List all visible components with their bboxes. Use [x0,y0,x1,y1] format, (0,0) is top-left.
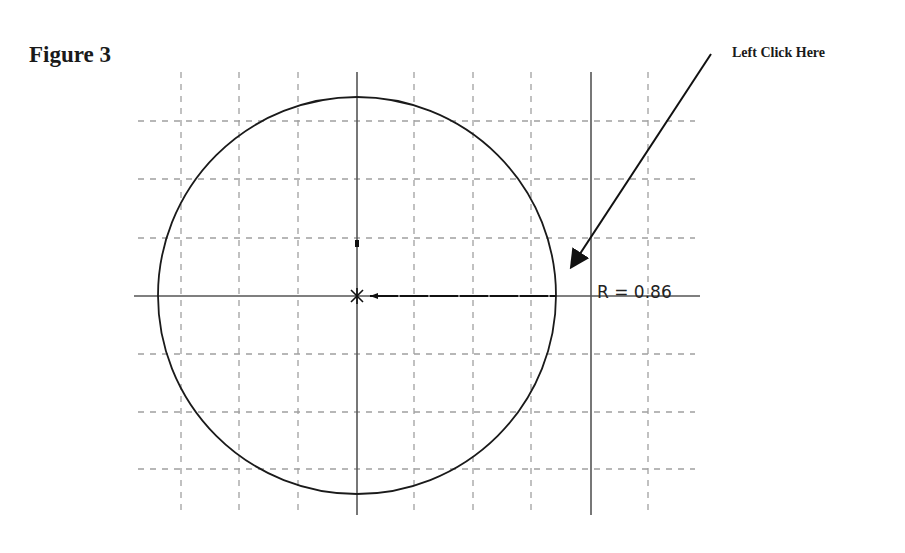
grid-vertical-lines [181,72,648,515]
radius-label: R = 0.86 [597,282,672,302]
radius-arrowhead-icon [370,293,378,299]
callout-arrow-icon [572,54,711,266]
vertical-tick-mark [355,240,359,247]
sketch-canvas[interactable] [0,0,905,553]
